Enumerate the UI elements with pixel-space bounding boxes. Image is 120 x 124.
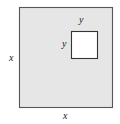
inner-square-shape bbox=[72, 32, 98, 59]
label-x-left: x bbox=[9, 53, 13, 63]
geometry-figure: x x y y bbox=[0, 0, 120, 124]
label-y-top: y bbox=[79, 15, 83, 25]
outer-square-shape bbox=[20, 8, 113, 108]
figure-canvas bbox=[0, 0, 120, 124]
label-y-left: y bbox=[62, 39, 66, 49]
label-x-bottom: x bbox=[63, 111, 67, 121]
